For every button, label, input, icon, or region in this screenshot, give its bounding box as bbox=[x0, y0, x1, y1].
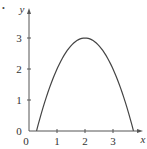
x-tick-label-3: 3 bbox=[110, 135, 116, 147]
x-axis-label: x bbox=[140, 133, 146, 145]
y-tick-label-0: 0 bbox=[16, 125, 22, 137]
y-tick-label-2: 2 bbox=[16, 63, 22, 75]
y-tick-label-1: 1 bbox=[16, 94, 22, 106]
parabola-curve bbox=[37, 38, 134, 131]
x-tick-label-2: 2 bbox=[82, 135, 88, 147]
x-tick-label-1: 1 bbox=[54, 135, 60, 147]
y-axis-label: y bbox=[19, 3, 25, 15]
x-tick-label-0: 0 bbox=[23, 135, 29, 147]
y-tick-label-3: 3 bbox=[16, 32, 22, 44]
y-axis-arrow-icon bbox=[27, 8, 31, 14]
chart: 0 1 2 3 0 1 2 3 y x bbox=[0, 0, 147, 149]
